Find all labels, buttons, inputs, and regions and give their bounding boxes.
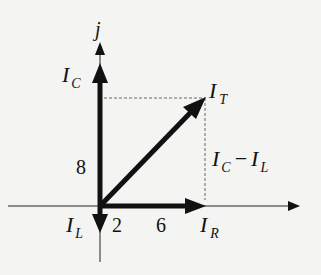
imag-axis-label: j (92, 18, 101, 41)
il-magnitude-label: 2 (112, 214, 122, 236)
phasor-diagram: j IC IT IC−IL 8 IL 2 6 IR (0, 0, 321, 275)
it-label: IT (208, 78, 228, 107)
ir-phasor-arrow (100, 198, 206, 214)
ic-phasor-arrow (92, 63, 108, 206)
ic-label: IC (61, 62, 81, 91)
il-label: IL (65, 212, 83, 241)
ic-magnitude-label: 8 (76, 156, 86, 178)
it-phasor-arrow (100, 97, 206, 206)
ir-label: IR (199, 212, 219, 241)
ir-magnitude-label: 6 (156, 214, 166, 236)
ic-minus-il-label: IC−IL (211, 146, 268, 175)
il-phasor-arrow (92, 206, 108, 233)
